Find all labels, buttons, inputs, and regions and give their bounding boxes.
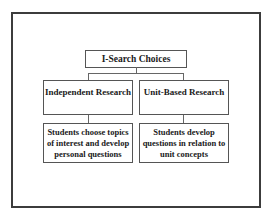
connector-right-desc: [183, 115, 184, 123]
connector-right-drop: [183, 73, 184, 80]
description-text: Students choose topics of interest and d…: [46, 127, 130, 160]
description-node-unit-based: Students develop questions in relation t…: [139, 123, 229, 163]
root-node: I-Search Choices: [85, 50, 187, 68]
description-text: Students develop questions in relation t…: [142, 127, 226, 160]
description-node-independent: Students choose topics of interest and d…: [43, 123, 133, 163]
branch-node-label: Independent Research: [45, 87, 131, 97]
branch-node-unit-based: Unit-Based Research: [139, 80, 229, 115]
connector-left-desc: [88, 115, 89, 123]
connector-left-drop: [88, 73, 89, 80]
branch-node-independent: Independent Research: [43, 80, 133, 115]
root-node-label: I-Search Choices: [102, 54, 171, 64]
connector-horizontal: [88, 73, 184, 74]
branch-node-label: Unit-Based Research: [144, 87, 225, 97]
